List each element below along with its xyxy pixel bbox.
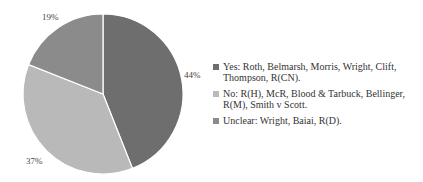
legend-swatch-no	[213, 91, 219, 97]
legend-label-yes: Yes: Roth, Belmarsh, Morris, Wright, Cli…	[223, 61, 396, 83]
legend-item-unclear: Unclear: Wright, Baiai, R(D).	[213, 115, 423, 126]
legend-item-no: No: R(H), McR, Blood & Tarbuck, Bellinge…	[213, 88, 423, 110]
legend-swatch-yes	[213, 64, 219, 70]
legend-label-unclear: Unclear: Wright, Baiai, R(D).	[223, 115, 342, 126]
slice-label-yes: 44%	[184, 70, 201, 80]
slice-label-unclear: 19%	[42, 12, 59, 22]
legend-label-no: No: R(H), McR, Blood & Tarbuck, Bellinge…	[223, 88, 405, 110]
legend-item-yes: Yes: Roth, Belmarsh, Morris, Wright, Cli…	[213, 61, 423, 83]
legend: Yes: Roth, Belmarsh, Morris, Wright, Cli…	[213, 61, 423, 131]
pie-chart	[0, 0, 210, 182]
slice-label-no: 37%	[26, 156, 43, 166]
legend-swatch-unclear	[213, 118, 219, 124]
